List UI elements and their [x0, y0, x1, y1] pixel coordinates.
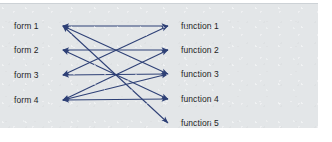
edge-form4-to-function4: [63, 99, 168, 100]
node-label-form-1: form 1: [14, 21, 39, 31]
right-margin: [318, 0, 332, 142]
node-label-function-3: function 3: [181, 69, 219, 79]
node-label-form-3: form 3: [14, 70, 39, 80]
node-label-function-2: function 2: [181, 45, 219, 55]
node-label-function-4: function 4: [181, 94, 219, 104]
figure-root: form 1 form 2 form 3 form 4 function 1 f…: [0, 0, 332, 142]
diagram-panel: form 1 form 2 form 3 form 4 function 1 f…: [0, 3, 318, 128]
node-label-form-4: form 4: [14, 95, 39, 105]
edge-layer: [0, 4, 318, 129]
edge-form4-to-function3: [63, 74, 168, 100]
node-label-form-2: form 2: [14, 45, 39, 55]
node-label-function-5: function 5: [181, 118, 219, 128]
bottom-margin: [0, 128, 332, 142]
edge-group: [63, 26, 168, 123]
node-label-function-1: function 1: [181, 21, 219, 31]
